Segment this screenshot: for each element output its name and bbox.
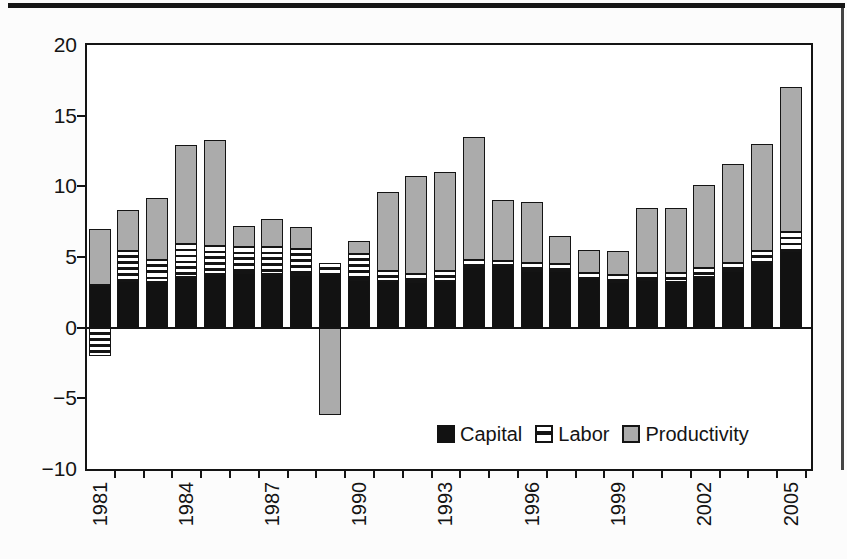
- bar-1981-productivity-segment: [89, 229, 111, 286]
- x-axis-tick-19: [632, 471, 634, 478]
- y-axis-label-0: 0: [23, 316, 77, 340]
- bar-1993: [434, 45, 456, 469]
- y-axis-tick--5: [77, 397, 86, 399]
- bar-2000-productivity-segment: [636, 208, 658, 273]
- y-axis-label-5: 5: [23, 245, 77, 269]
- x-axis-tick-17: [575, 471, 577, 478]
- bar-1987-productivity-segment: [261, 219, 283, 247]
- legend-label-labor: Labor: [558, 423, 609, 446]
- bar-1992-productivity-segment: [405, 176, 427, 274]
- bar-2005-labor-segment: [780, 232, 802, 252]
- bar-1982-capital-segment: [117, 281, 139, 328]
- x-axis-tick-5: [229, 471, 231, 478]
- bar-1985-productivity-segment: [204, 140, 226, 246]
- bar-1983: [146, 45, 168, 469]
- y-axis-tick-5: [77, 256, 86, 258]
- x-axis-tick-24: [776, 471, 778, 478]
- x-axis-tick-7: [287, 471, 289, 478]
- bar-1990-labor-segment: [348, 254, 370, 279]
- y-axis-tick-0: [77, 327, 86, 329]
- bar-1983-capital-segment: [146, 282, 168, 327]
- bar-1998-capital-segment: [578, 278, 600, 327]
- bar-1999: [607, 45, 629, 469]
- bar-2003: [722, 45, 744, 469]
- bar-2005: [780, 45, 802, 469]
- bar-2002: [693, 45, 715, 469]
- bar-1990-productivity-segment: [348, 241, 370, 254]
- bar-1993-capital-segment: [434, 281, 456, 328]
- legend-label-capital: Capital: [460, 423, 522, 446]
- bar-1989: [319, 45, 341, 469]
- page-edge-line: [841, 8, 844, 470]
- bars-layer: [87, 45, 811, 469]
- bar-2004-labor-segment: [751, 251, 773, 262]
- x-axis-tick-12: [431, 471, 433, 478]
- x-axis-tick-1: [114, 471, 116, 478]
- bar-1994: [463, 45, 485, 469]
- bar-1996: [521, 45, 543, 469]
- y-axis-tick-15: [77, 115, 86, 117]
- bar-1999-productivity-segment: [607, 251, 629, 275]
- bar-1995-productivity-segment: [492, 200, 514, 261]
- x-axis-label-2002: 2002: [693, 472, 715, 536]
- bar-1988-labor-segment: [290, 249, 312, 276]
- bar-1985: [204, 45, 226, 469]
- bar-1988-capital-segment: [290, 275, 312, 327]
- bar-1989-capital-segment: [319, 274, 341, 328]
- bar-1998-productivity-segment: [578, 250, 600, 273]
- bar-2004-productivity-segment: [751, 144, 773, 251]
- x-axis-tick-8: [315, 471, 317, 478]
- legend-item-capital: Capital: [437, 423, 522, 446]
- bar-1987: [261, 45, 283, 469]
- bar-1996-labor-segment: [521, 263, 543, 271]
- x-axis-tick-2: [143, 471, 145, 478]
- bar-1988-productivity-segment: [290, 227, 312, 248]
- x-axis-label-1999: 1999: [607, 472, 629, 536]
- x-axis-tick-18: [603, 471, 605, 478]
- bar-2001-capital-segment: [665, 282, 687, 327]
- bar-1985-capital-segment: [204, 274, 226, 328]
- bar-2004: [751, 45, 773, 469]
- bar-1994-capital-segment: [463, 267, 485, 328]
- bar-1989-productivity-segment: [319, 328, 341, 416]
- bar-2005-capital-segment: [780, 251, 802, 327]
- bar-2003-labor-segment: [722, 263, 744, 271]
- bar-1992: [405, 45, 427, 469]
- bar-2001: [665, 45, 687, 469]
- bar-1997-labor-segment: [549, 264, 571, 271]
- legend-item-productivity: Productivity: [622, 423, 748, 446]
- bar-1984: [175, 45, 197, 469]
- x-axis-tick-4: [200, 471, 202, 478]
- bar-1985-labor-segment: [204, 246, 226, 274]
- bar-1992-capital-segment: [405, 282, 427, 327]
- bar-1994-labor-segment: [463, 260, 485, 267]
- x-axis-tick-10: [373, 471, 375, 478]
- bar-1986-labor-segment: [233, 247, 255, 272]
- bar-1998: [578, 45, 600, 469]
- bar-1990-capital-segment: [348, 280, 370, 328]
- x-axis-tick-23: [747, 471, 749, 478]
- bar-1996-capital-segment: [521, 271, 543, 328]
- x-axis-label-1981: 1981: [89, 472, 111, 536]
- y-axis-label--10: −10: [23, 457, 77, 481]
- bar-1981-capital-segment: [89, 285, 111, 327]
- plot-area: Capital Labor Productivity: [85, 43, 813, 471]
- bar-1993-productivity-segment: [434, 172, 456, 271]
- bar-1991-labor-segment: [377, 271, 399, 281]
- bar-1995-capital-segment: [492, 265, 514, 327]
- bar-1986-capital-segment: [233, 273, 255, 328]
- x-axis-tick-11: [402, 471, 404, 478]
- y-axis-tick-10: [77, 185, 86, 187]
- legend: Capital Labor Productivity: [437, 423, 749, 445]
- bar-1984-productivity-segment: [175, 145, 197, 244]
- bar-2001-labor-segment: [665, 273, 687, 283]
- bar-1997-capital-segment: [549, 271, 571, 328]
- bar-2002-productivity-segment: [693, 185, 715, 268]
- x-axis-label-1987: 1987: [261, 472, 283, 536]
- bar-1999-capital-segment: [607, 282, 629, 327]
- bar-1987-capital-segment: [261, 274, 283, 328]
- bar-1997-productivity-segment: [549, 236, 571, 264]
- bar-1982-labor-segment: [117, 251, 139, 281]
- bar-1982: [117, 45, 139, 469]
- bar-1988: [290, 45, 312, 469]
